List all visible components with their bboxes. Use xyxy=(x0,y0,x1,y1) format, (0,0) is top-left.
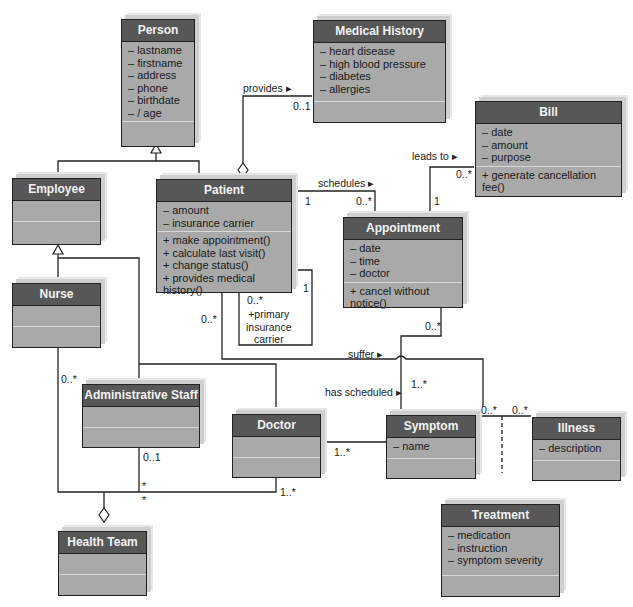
mult-label: 1..* xyxy=(280,486,296,498)
class-title: Patient xyxy=(157,180,291,202)
attributes: – name xyxy=(387,438,475,455)
class-illness[interactable]: Illness – description xyxy=(532,417,621,481)
mult-label: * xyxy=(142,480,146,492)
operations: + cancel without notice() xyxy=(344,282,462,312)
attributes: – amount – insurance carrier xyxy=(157,202,291,231)
mult-label: * xyxy=(142,494,146,506)
assoc-label-leads-to: leads to ▸ xyxy=(412,150,458,162)
class-appointment[interactable]: Appointment – date – time – doctor + can… xyxy=(343,217,463,308)
class-medical-history[interactable]: Medical History – heart disease – high b… xyxy=(313,20,446,123)
mult-label: 1..* xyxy=(411,378,427,390)
attributes: – medication – instruction – symptom sev… xyxy=(442,527,559,569)
mult-label: 0..* xyxy=(425,320,441,332)
class-health-team[interactable]: Health Team xyxy=(58,531,147,596)
assoc-label-has-scheduled: has scheduled ▸ xyxy=(325,386,402,398)
assoc-label-suffer: suffer ▸ xyxy=(348,348,383,360)
operations: + generate cancellation fee() xyxy=(476,166,621,196)
class-title: Treatment xyxy=(442,505,559,527)
mult-label: 0..* xyxy=(61,373,77,385)
attributes: – date – time – doctor xyxy=(344,240,462,282)
mult-label: 1 xyxy=(434,195,440,207)
class-person[interactable]: Person – lastname – firstname – address … xyxy=(121,19,195,147)
attributes: – date – amount – purpose xyxy=(476,124,621,166)
class-treatment[interactable]: Treatment – medication – instruction – s… xyxy=(441,504,560,597)
role-label-primary-insurance-carrier: +primary insurance carrier xyxy=(246,308,292,346)
mult-label: 0..1 xyxy=(293,100,311,112)
attributes: – heart disease – high blood pressure – … xyxy=(314,43,445,97)
class-administrative-staff[interactable]: Administrative Staff xyxy=(82,384,200,448)
mult-label: 0..* xyxy=(201,313,217,325)
class-nurse[interactable]: Nurse xyxy=(12,283,101,348)
class-title: Person xyxy=(122,20,194,42)
class-patient[interactable]: Patient – amount – insurance carrier + m… xyxy=(156,179,292,293)
class-title: Administrative Staff xyxy=(83,385,199,407)
mult-label: 0..* xyxy=(481,404,497,416)
mult-label: 1..* xyxy=(334,446,350,458)
class-title: Employee xyxy=(13,179,100,201)
mult-label: 0..* xyxy=(356,195,372,207)
class-title: Doctor xyxy=(233,415,320,437)
operations: + make appointment() + calculate last vi… xyxy=(157,231,291,299)
mult-label: 0..* xyxy=(456,168,472,180)
operations xyxy=(314,101,445,102)
mult-label: 0..1 xyxy=(143,451,161,463)
class-doctor[interactable]: Doctor xyxy=(232,414,321,478)
class-title: Health Team xyxy=(59,532,146,554)
attributes: – description xyxy=(533,440,620,457)
mult-label: 0..* xyxy=(512,404,528,416)
mult-label: 0..* xyxy=(247,294,263,306)
class-title: Bill xyxy=(476,102,621,124)
assoc-label-provides: provides ▸ xyxy=(243,82,292,94)
class-bill[interactable]: Bill – date – amount – purpose + generat… xyxy=(475,101,622,197)
class-title: Appointment xyxy=(344,218,462,240)
assoc-label-schedules: schedules ▸ xyxy=(318,177,374,189)
mult-label: 1 xyxy=(305,195,311,207)
class-employee[interactable]: Employee xyxy=(12,178,101,245)
attributes: – lastname – firstname – address – phone… xyxy=(122,42,194,121)
operations xyxy=(122,121,194,122)
class-title: Nurse xyxy=(13,284,100,306)
class-title: Medical History xyxy=(314,21,445,43)
class-title: Illness xyxy=(533,418,620,440)
class-title: Symptom xyxy=(387,416,475,438)
mult-label: 1 xyxy=(303,282,309,294)
class-symptom[interactable]: Symptom – name xyxy=(386,415,476,479)
